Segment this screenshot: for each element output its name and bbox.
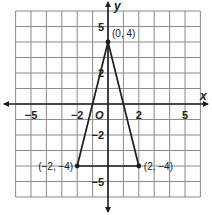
origin-label: O [95, 109, 104, 121]
vertex-point [136, 164, 141, 169]
x-tick-label: −5 [25, 109, 38, 121]
vertex-label: (−2, −4) [38, 161, 73, 172]
y-axis-up-arrow-icon [105, 1, 111, 7]
y-axis-down-arrow-icon [105, 207, 111, 213]
x-tick-label: 5 [182, 109, 188, 121]
x-tick-label: 2 [136, 109, 142, 121]
y-tick-label: −2 [91, 129, 104, 141]
x-axis-label: x [199, 89, 208, 103]
vertex-point [106, 40, 111, 45]
y-tick-label: −5 [91, 176, 104, 188]
coordinate-plane: yxO−5−22552−2−5(0, 4)(2, −4)(−2, −4) [0, 0, 212, 215]
x-axis-left-arrow-icon [3, 101, 9, 107]
y-tick-label: 5 [98, 21, 104, 33]
vertex-point [75, 164, 80, 169]
plot-svg: yxO−5−22552−2−5(0, 4)(2, −4)(−2, −4) [0, 0, 212, 215]
vertex-label: (2, −4) [144, 161, 173, 172]
y-axis-label: y [113, 0, 122, 13]
x-tick-label: −2 [71, 109, 84, 121]
vertex-label: (0, 4) [112, 28, 135, 39]
